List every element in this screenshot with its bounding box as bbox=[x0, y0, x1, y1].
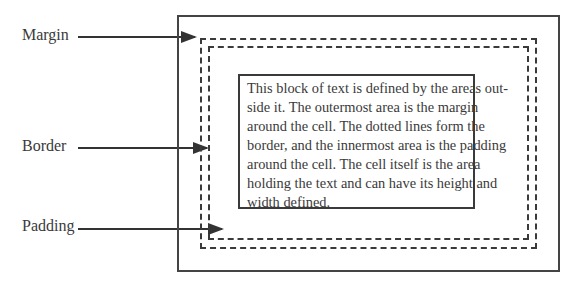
cell-text-line: around the cell. The dotted lines form t… bbox=[247, 117, 467, 136]
cell-box: This block of text is defined by the are… bbox=[238, 74, 475, 209]
cell-text: This block of text is defined by the are… bbox=[247, 79, 467, 212]
cell-text-line: around the cell. The cell itself is the … bbox=[247, 155, 467, 174]
border-label: Border bbox=[22, 137, 66, 155]
padding-label: Padding bbox=[22, 217, 74, 235]
margin-label: Margin bbox=[22, 26, 69, 44]
cell-text-line: This block of text is defined by the are… bbox=[247, 79, 467, 98]
cell-text-line: side it. The outermost area is the margi… bbox=[247, 98, 467, 117]
cell-text-line: holding the text and can have its height… bbox=[247, 174, 467, 193]
cell-text-line: width defined. bbox=[247, 193, 467, 212]
cell-text-line: border, and the innermost area is the pa… bbox=[247, 136, 467, 155]
